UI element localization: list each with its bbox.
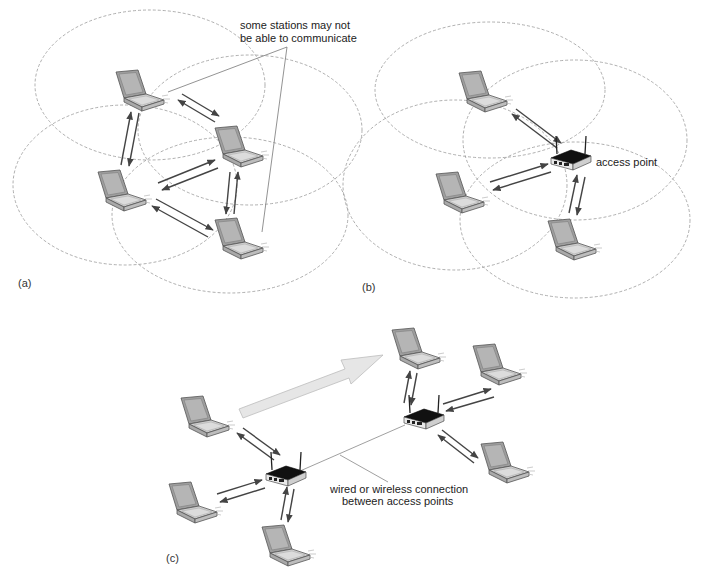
link-arrow bbox=[162, 168, 218, 190]
access-point-icon bbox=[266, 452, 306, 486]
range-circle bbox=[375, 22, 605, 158]
link-arrow bbox=[121, 112, 131, 165]
laptop-icon bbox=[392, 328, 446, 369]
link-arrow bbox=[443, 389, 491, 404]
panel-c: wired or wireless connection between acc… bbox=[166, 328, 535, 566]
link-arrow bbox=[490, 164, 548, 182]
link-arrow bbox=[288, 489, 294, 522]
range-circle bbox=[463, 60, 687, 220]
link-arrow bbox=[446, 397, 494, 411]
callout-line bbox=[340, 455, 388, 482]
link-arrow bbox=[438, 435, 474, 463]
range-circle bbox=[138, 55, 362, 205]
panel-label-b: (b) bbox=[362, 281, 375, 293]
laptop-icon bbox=[181, 396, 235, 437]
link-arrow bbox=[281, 487, 287, 520]
panel-label-c: (c) bbox=[166, 552, 179, 564]
link-arrow bbox=[156, 199, 213, 230]
panel-b: access point (b) bbox=[343, 22, 690, 298]
range-circles-a bbox=[13, 10, 362, 293]
link-arrow bbox=[226, 172, 230, 214]
link-arrow bbox=[569, 175, 577, 213]
laptop-icon bbox=[481, 442, 535, 483]
ap-connection-label-line-1: wired or wireless connection bbox=[329, 483, 468, 495]
laptop-icon bbox=[436, 172, 490, 213]
access-point-icon bbox=[551, 136, 591, 170]
link-arrow bbox=[217, 480, 262, 494]
callout-text-line-1: some stations may not bbox=[240, 19, 350, 31]
panel-a: some stations may not be able to communi… bbox=[13, 10, 362, 293]
laptop-icon bbox=[98, 170, 152, 211]
callout-a: some stations may not be able to communi… bbox=[168, 19, 357, 232]
link-arrow bbox=[442, 430, 478, 458]
link-arrow bbox=[411, 373, 417, 405]
link-arrow bbox=[516, 109, 561, 143]
wireless-network-diagram: some stations may not be able to communi… bbox=[0, 0, 704, 577]
link-arrow bbox=[220, 488, 265, 502]
laptop-icon bbox=[215, 218, 269, 259]
roaming-arrow bbox=[239, 355, 383, 418]
laptop-icon bbox=[116, 70, 170, 111]
callout-text-line-2: be able to communicate bbox=[240, 32, 357, 44]
panel-label-a: (a) bbox=[18, 277, 31, 289]
ap-connection-label-line-2: between access points bbox=[342, 495, 454, 507]
laptop-icon bbox=[215, 126, 269, 167]
link-arrow bbox=[158, 160, 215, 183]
laptop-icon bbox=[548, 219, 602, 260]
laptop-icon bbox=[169, 482, 223, 523]
laptop-icon bbox=[262, 525, 316, 566]
link-arrow bbox=[512, 114, 557, 148]
link-arrow bbox=[577, 177, 585, 215]
link-arrow bbox=[234, 172, 238, 214]
link-arrow bbox=[152, 206, 208, 237]
laptop-icon bbox=[473, 344, 527, 385]
link-arrow bbox=[493, 172, 551, 190]
access-point-icon bbox=[404, 395, 444, 429]
ap-interconnect-line bbox=[300, 425, 405, 471]
link-arrow bbox=[129, 113, 139, 166]
access-point-label: access point bbox=[596, 156, 657, 168]
